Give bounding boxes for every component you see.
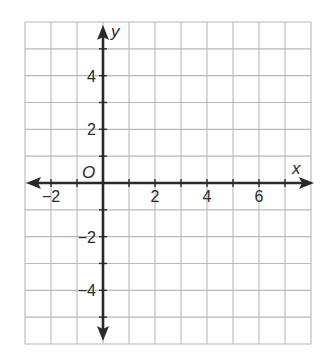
x-axis-label: x [291,159,301,178]
x-tick-label: 2 [151,188,160,205]
y-axis-label: y [110,22,121,41]
x-tick-label: 4 [203,188,212,205]
y-tick-label: −2 [78,229,96,246]
coordinate-plane: −224642−2−4 x y O [0,0,324,358]
y-tick-label: 4 [87,68,96,85]
y-tick-label: −4 [78,282,96,299]
axes [26,25,314,341]
x-tick-label: −2 [42,188,60,205]
origin-label: O [82,163,95,182]
y-tick-label: 2 [87,121,96,138]
x-tick-label: 6 [255,188,264,205]
